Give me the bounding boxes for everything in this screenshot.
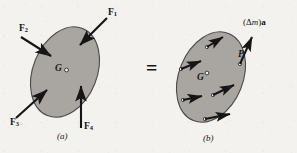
mass-center-marker-a xyxy=(65,68,69,72)
mass-center-label-b: G xyxy=(197,73,204,83)
caption-a: (a) xyxy=(57,132,68,141)
force-label-f2: F2 xyxy=(19,24,28,34)
body-ellipse-a xyxy=(18,16,113,127)
point-label-p: P xyxy=(238,50,244,60)
mass-center-label-a: G xyxy=(55,64,62,74)
caption-b: (b) xyxy=(203,134,214,143)
body-ellipse-b xyxy=(164,21,259,132)
mass-center-marker-b xyxy=(205,71,209,75)
equals-sign: = xyxy=(146,58,157,78)
force-label-f4: F4 xyxy=(84,122,93,132)
force-label-f3: F3 xyxy=(10,118,19,128)
figure-container: F2 F1 F3 F4 G = G P (Δm)a (a) (b) xyxy=(0,0,297,153)
force-label-f1: F1 xyxy=(108,8,117,18)
inertia-force-label: (Δm)a xyxy=(243,18,266,27)
